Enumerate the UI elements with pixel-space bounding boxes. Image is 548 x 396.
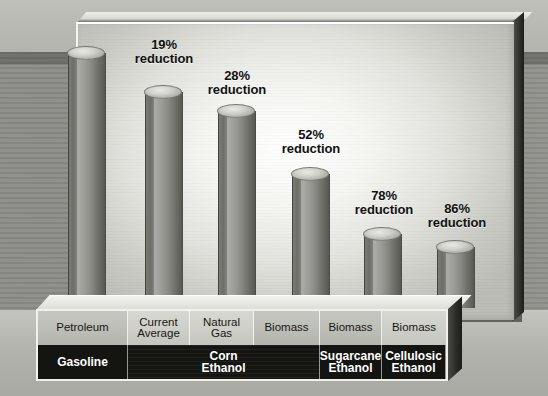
- feedstock-cell-biomass-sugarcane: Biomass: [320, 311, 382, 345]
- bar-top-cap: [144, 85, 182, 99]
- bar-corn-ethanol-current-average: [145, 85, 183, 308]
- callout-corn-ethanol-natural-gas: 28% reduction: [196, 69, 278, 97]
- bar-body: [145, 92, 183, 308]
- label-table: Petroleum Current Average Natural Gas Bi…: [36, 309, 448, 381]
- feedstock-cell-petroleum: Petroleum: [38, 311, 128, 345]
- fuel-cell-gasoline: Gasoline: [38, 345, 128, 379]
- bar-body: [68, 53, 106, 308]
- bar-top-cap: [436, 240, 474, 254]
- callout-percent: 28%: [196, 69, 278, 83]
- callout-corn-ethanol-biomass: 52% reduction: [270, 128, 352, 156]
- feedstock-cell-current-average: Current Average: [128, 311, 190, 345]
- callout-percent: 19%: [123, 38, 205, 52]
- callout-percent: 78%: [343, 189, 425, 203]
- chart-figure: 19% reduction 28% reduction 52% reductio…: [0, 0, 548, 396]
- callout-word: reduction: [343, 203, 425, 217]
- callout-word: reduction: [270, 142, 352, 156]
- bar-body: [292, 174, 330, 308]
- bar-top-cap: [217, 104, 255, 118]
- fuel-cell-cellulosic-ethanol: Cellulosic Ethanol: [382, 345, 446, 379]
- bar-top-cap: [67, 46, 105, 60]
- callout-corn-ethanol-current-average: 19% reduction: [123, 38, 205, 66]
- callout-sugarcane-ethanol-biomass: 78% reduction: [343, 189, 425, 217]
- fuel-cell-sugarcane-ethanol: Sugarcane Ethanol: [320, 345, 382, 379]
- bar-body: [218, 111, 256, 308]
- feedstock-cell-natural-gas: Natural Gas: [190, 311, 254, 345]
- callout-percent: 86%: [416, 202, 498, 216]
- bar-top-cap: [363, 227, 401, 241]
- callout-percent: 52%: [270, 128, 352, 142]
- bar-corn-ethanol-biomass: [292, 167, 330, 308]
- bar-corn-ethanol-natural-gas: [218, 104, 256, 308]
- callout-word: reduction: [123, 52, 205, 66]
- callout-cellulosic-ethanol-biomass: 86% reduction: [416, 202, 498, 230]
- callout-word: reduction: [196, 83, 278, 97]
- fuel-row: Gasoline Corn Ethanol Sugarcane Ethanol …: [38, 345, 446, 379]
- fuel-cell-corn-ethanol: Corn Ethanol: [128, 345, 320, 379]
- bar-top-cap: [291, 167, 329, 181]
- bar-petroleum-gasoline: [68, 46, 106, 308]
- feedstock-row: Petroleum Current Average Natural Gas Bi…: [38, 311, 446, 345]
- label-table-top-bevel: [36, 295, 472, 310]
- label-table-side-bevel: [448, 296, 462, 381]
- feedstock-cell-biomass-corn: Biomass: [254, 311, 320, 345]
- callout-word: reduction: [416, 216, 498, 230]
- feedstock-cell-biomass-cellulosic: Biomass: [382, 311, 446, 345]
